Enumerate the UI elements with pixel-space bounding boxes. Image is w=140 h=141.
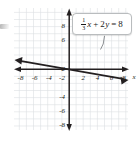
svg-text:-6: -6 — [59, 107, 65, 115]
equation-text: 1 3 x + 2 y = 8 — [81, 17, 123, 31]
scan-artifact — [0, 24, 9, 29]
svg-text:6: 6 — [62, 36, 66, 44]
svg-text:-4: -4 — [46, 74, 52, 82]
plus-operator: + — [91, 20, 100, 29]
svg-text:6: 6 — [110, 74, 114, 82]
fraction-denominator: 3 — [81, 24, 86, 31]
svg-text:-6: -6 — [32, 74, 38, 82]
fraction-one-third: 1 3 — [81, 17, 86, 31]
svg-text:2: 2 — [81, 74, 85, 82]
svg-text:-8: -8 — [18, 74, 24, 82]
callout-leader-line — [101, 36, 105, 50]
svg-text:8: 8 — [122, 74, 126, 82]
svg-text:4: 4 — [96, 74, 100, 82]
svg-text:-2: -2 — [59, 74, 65, 82]
svg-text:8: 8 — [62, 22, 66, 30]
equation-callout: 1 3 x + 2 y = 8 — [72, 13, 132, 35]
equals-operator: = — [109, 20, 118, 29]
right-hand-side: 8 — [118, 20, 123, 29]
svg-text:x: x — [131, 73, 136, 81]
svg-text:-8: -8 — [59, 121, 65, 129]
svg-text:2: 2 — [62, 65, 66, 73]
svg-text:-4: -4 — [59, 93, 65, 101]
